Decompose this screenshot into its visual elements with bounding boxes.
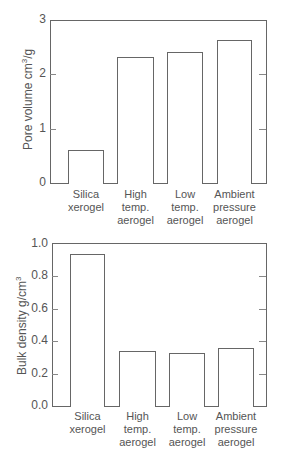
y-tick-mark-right — [259, 374, 266, 375]
x-tick-label-line: Low — [159, 410, 215, 423]
y-tick-mark — [52, 309, 58, 310]
x-tick-label-line: aerogel — [208, 436, 264, 449]
y-tick-label: 0.0 — [22, 398, 48, 412]
x-tick-label: Silicaxerogel — [60, 410, 116, 436]
y-tick-label: 0.2 — [22, 366, 48, 380]
y-tick-label: 0.8 — [22, 268, 48, 282]
bulk-density-chart: Bulk density g/cm3 0.00.20.40.60.81.0 Si… — [0, 0, 283, 455]
y-tick-mark — [52, 276, 58, 277]
y-tick-mark — [52, 341, 58, 342]
y-tick-mark-right — [259, 341, 266, 342]
y-axis-label: Bulk density g/cm3 — [14, 277, 29, 376]
x-tick-label-line: Ambient — [208, 410, 264, 423]
x-tick-label-line: xerogel — [60, 423, 116, 436]
bar — [70, 254, 105, 407]
x-tick-label-line: High — [110, 410, 166, 423]
x-tick-label: Hightemp.aerogel — [110, 410, 166, 449]
y-tick-label: 1.0 — [22, 236, 48, 250]
y-tick-label: 0.4 — [22, 333, 48, 347]
bar — [218, 348, 254, 407]
x-tick-label-line: aerogel — [159, 436, 215, 449]
y-tick-mark-right — [259, 309, 266, 310]
bar — [119, 351, 156, 407]
x-tick-label-line: aerogel — [110, 436, 166, 449]
y-tick-label: 0.6 — [22, 301, 48, 315]
x-tick-label-line: temp. — [159, 423, 215, 436]
bar — [169, 353, 205, 407]
x-tick-label-line: pressure — [208, 423, 264, 436]
x-tick-label: Ambientpressureaerogel — [208, 410, 264, 449]
x-tick-label: Lowtemp.aerogel — [159, 410, 215, 449]
x-tick-label-line: temp. — [110, 423, 166, 436]
y-tick-mark-right — [259, 276, 266, 277]
y-tick-mark — [52, 374, 58, 375]
x-tick-label-line: Silica — [60, 410, 116, 423]
